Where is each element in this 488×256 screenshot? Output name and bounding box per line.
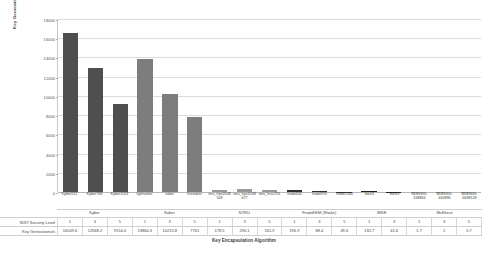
security-level-cell-16: 5: [456, 218, 482, 226]
bar-cell: [58, 19, 83, 192]
security-level-cell-10: 3: [306, 218, 331, 226]
security-level-cell-13: 3: [381, 218, 406, 226]
bar-cell: [232, 19, 257, 192]
keygen-value-cell-10: 88.4: [306, 227, 331, 235]
bar-cell: [133, 19, 158, 192]
bar-cell: [83, 19, 108, 192]
y-tick-label-18000: 18000: [44, 18, 55, 23]
category-label-8: ntru_hrss701: [257, 192, 282, 209]
security-level-cell-5: 5: [182, 218, 207, 226]
keygen-value-cell-5: 7761: [182, 227, 207, 235]
keygen-value-cell-16: 0.7: [456, 227, 482, 235]
family-label-saber: Saber: [132, 209, 207, 217]
bar-cell: [257, 19, 282, 192]
category-label-1: Kyber768: [82, 192, 107, 209]
family-label-ntru: NTRU: [207, 209, 282, 217]
y-tick-label-8000: 8000: [46, 114, 55, 119]
keygen-value-cell-11: 49.6: [331, 227, 356, 235]
y-tick-label-12000: 12000: [44, 75, 55, 80]
category-label-7: ntru_hps2048677: [232, 192, 257, 209]
y-tick-label-6000: 6000: [46, 133, 55, 138]
keygen-value-cell-1: 12948.2: [82, 227, 107, 235]
bar-saber[interactable]: [162, 94, 177, 192]
y-axis-title: Key Generations Per Second: [12, 0, 17, 52]
y-tick-label-14000: 14000: [44, 56, 55, 61]
bar-cell: [282, 19, 307, 192]
category-label-3: lightsaber: [132, 192, 157, 209]
table-row-keygen-rate: Key Generations/s 16549.612948.29154.413…: [0, 227, 482, 236]
table-row-security-level: NIST Security Level 13513513513513135: [0, 217, 482, 227]
security-level-cell-6: 1: [207, 218, 232, 226]
y-tick-label-2000: 2000: [46, 171, 55, 176]
keygen-value-cell-8: 161.9: [257, 227, 282, 235]
category-label-12: bikel1: [357, 192, 382, 209]
keygen-value-cell-6: 178.5: [207, 227, 232, 235]
chart-container: Key Generations Per Second 0200040006000…: [0, 0, 488, 256]
family-label-bike: BIKE: [357, 209, 407, 217]
y-tick-label-4000: 4000: [46, 152, 55, 157]
row-header-spacer: [0, 192, 57, 209]
security-level-cell-15: 3: [431, 218, 456, 226]
bar-cell: [332, 19, 357, 192]
keygen-value-cell-7: 290.1: [232, 227, 257, 235]
bar-firesaber[interactable]: [187, 117, 202, 192]
table-row-families: KyberSaberNTRUFrodoKEM (Shake)BIKEMcElie…: [0, 209, 482, 217]
bar-cell: [158, 19, 183, 192]
bar-Kyber768[interactable]: [88, 68, 103, 192]
category-label-2: Kyber1024: [107, 192, 132, 209]
category-label-5: firesaber: [182, 192, 207, 209]
keygen-value-cell-13: 41.6: [381, 227, 406, 235]
security-level-cell-4: 3: [157, 218, 182, 226]
bar-cell: [207, 19, 232, 192]
bar-cell: [381, 19, 406, 192]
keygen-value-cell-15: 1: [431, 227, 456, 235]
security-level-cell-11: 5: [331, 218, 356, 226]
family-label-kyber: Kyber: [57, 209, 132, 217]
y-tick-label-16000: 16000: [44, 37, 55, 42]
category-label-9: frodo640: [282, 192, 307, 209]
bar-cell: [406, 19, 431, 192]
keygen-value-cell-0: 16549.6: [57, 227, 82, 235]
security-level-cell-3: 1: [132, 218, 157, 226]
security-level-cell-8: 5: [257, 218, 282, 226]
security-level-cell-1: 3: [82, 218, 107, 226]
bar-cell: [108, 19, 133, 192]
category-label-0: Kyber512: [57, 192, 82, 209]
category-label-15: McEliece-460896: [432, 192, 457, 209]
bar-cell: [431, 19, 456, 192]
security-level-cell-12: 1: [356, 218, 381, 226]
row-label-keygen-rate: Key Generations/s: [0, 227, 57, 235]
plot-area: 0200040006000800010000120001400016000180…: [57, 19, 481, 192]
bar-lightsaber[interactable]: [137, 59, 152, 192]
category-label-13: bikel3: [382, 192, 407, 209]
keygen-value-cell-3: 13860.3: [132, 227, 157, 235]
category-label-4: saber: [157, 192, 182, 209]
security-level-cell-0: 1: [57, 218, 82, 226]
category-label-10: frodo976: [307, 192, 332, 209]
table-row-category-names: Kyber512Kyber768Kyber1024lightsabersaber…: [0, 192, 482, 209]
data-table: Kyber512Kyber768Kyber1024lightsabersaber…: [0, 192, 482, 236]
keygen-value-cell-9: 196.9: [281, 227, 306, 235]
bar-Kyber512[interactable]: [63, 33, 78, 192]
bar-Kyber1024[interactable]: [113, 104, 128, 192]
category-label-11: frodo1344: [332, 192, 357, 209]
category-label-16: McEliece-6688128: [457, 192, 482, 209]
row-header-spacer-2: [0, 209, 57, 217]
family-label-mceliece: McEliece: [407, 209, 482, 217]
bar-cell: [182, 19, 207, 192]
security-level-cell-14: 1: [406, 218, 431, 226]
bar-cell: [307, 19, 332, 192]
category-label-6: ntru_hps2048509: [207, 192, 232, 209]
y-tick-label-10000: 10000: [44, 94, 55, 99]
security-level-cell-9: 1: [281, 218, 306, 226]
x-axis-title: Key Encapsulation Algorithm: [0, 238, 488, 243]
bar-cell: [357, 19, 382, 192]
keygen-value-cell-2: 9154.4: [107, 227, 132, 235]
row-label-security-level: NIST Security Level: [0, 218, 57, 226]
keygen-value-cell-12: 132.7: [356, 227, 381, 235]
category-label-14: McEliece-348864: [407, 192, 432, 209]
security-level-cell-2: 5: [107, 218, 132, 226]
keygen-value-cell-4: 10215.8: [157, 227, 182, 235]
bar-cell: [456, 19, 481, 192]
bar-series: [58, 19, 481, 192]
